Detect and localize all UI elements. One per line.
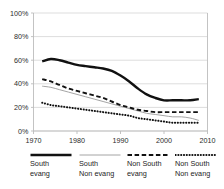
x-axis-tick-labels: 19701980199020002010 <box>26 136 216 145</box>
y-axis <box>31 13 208 131</box>
legend-swatch-dashed <box>127 152 169 158</box>
legend-label: South evang <box>30 159 72 178</box>
gridlines <box>34 13 208 131</box>
legend-label: South Non evang <box>79 159 121 178</box>
legend-label: Non South evang <box>127 159 169 178</box>
x-tick-label: 2000 <box>156 136 172 145</box>
legend-swatch-dotted <box>175 152 217 158</box>
data-series <box>42 59 199 123</box>
legend-item-non-south-evang[interactable]: Non South evang <box>127 152 169 178</box>
x-tick-label: 1990 <box>113 136 129 145</box>
legend-label: Non South Non evang <box>175 159 217 178</box>
x-axis <box>34 131 208 134</box>
chart-container: 0%20%40%60%80%100% 19701980199020002010 … <box>0 0 224 189</box>
chart-legend: South evangSouth Non evangNon South evan… <box>0 152 224 189</box>
y-tick-label: 80% <box>14 32 29 41</box>
legend-swatch-thin-solid <box>79 152 121 158</box>
legend-item-south-non-evang[interactable]: South Non evang <box>79 152 121 178</box>
y-tick-label: 40% <box>14 79 29 88</box>
legend-item-non-south-non-evang[interactable]: Non South Non evang <box>175 152 217 178</box>
x-tick-label: 2010 <box>200 136 216 145</box>
series-line-south-evang <box>42 59 199 101</box>
y-axis-tick-labels: 0%20%40%60%80%100% <box>10 9 29 136</box>
series-line-south-non-evang <box>42 86 199 120</box>
y-tick-label: 60% <box>14 56 29 65</box>
line-chart: 0%20%40%60%80%100% 19701980199020002010 <box>0 0 224 150</box>
legend-item-south-evang[interactable]: South evang <box>30 152 72 178</box>
y-tick-label: 20% <box>14 103 29 112</box>
x-tick-label: 1970 <box>26 136 42 145</box>
legend-swatch-thick-solid <box>30 152 72 158</box>
y-tick-label: 100% <box>10 9 29 18</box>
y-tick-label: 0% <box>18 127 29 136</box>
x-tick-label: 1980 <box>69 136 85 145</box>
